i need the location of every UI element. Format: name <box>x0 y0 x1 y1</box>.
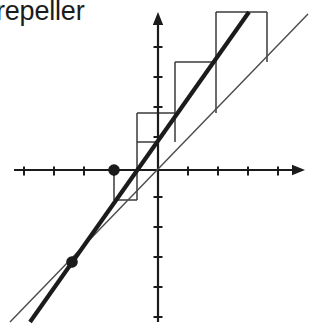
repelling-fixed-point-right <box>109 165 119 175</box>
fixed-point-markers <box>67 165 119 267</box>
repelling-fixed-point-left <box>67 257 77 267</box>
y-axis-arrow-icon <box>153 12 163 25</box>
cobweb-diagram-figure: repeller <box>0 0 313 326</box>
map-function-line <box>30 12 249 322</box>
x-axis-arrow-icon <box>292 165 305 175</box>
plot-canvas <box>0 0 313 326</box>
